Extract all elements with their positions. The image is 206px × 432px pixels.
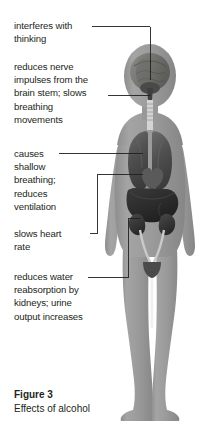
head: [124, 44, 176, 108]
leader-line-reduces-water-reabsorption: [88, 219, 140, 278]
neck: [142, 100, 158, 120]
bladder: [143, 262, 161, 278]
urinary-tract-organ: [140, 230, 164, 328]
callout-causes-shallow-breathing: causes shallow breathing; reduces ventil…: [14, 147, 84, 213]
body-silhouette-group: [105, 44, 195, 421]
callout-reduces-nerve-impulses: reduces nerve impulses from the brain st…: [14, 60, 110, 126]
right-arm: [163, 128, 195, 256]
figure-caption-text: Effects of alcohol: [14, 402, 144, 416]
leader-line-slows-heart-rate: [90, 175, 143, 234]
left-arm: [105, 128, 137, 256]
torso: [115, 120, 186, 226]
brain-organ: [130, 53, 170, 100]
liver-stomach-organ: [127, 188, 179, 222]
lungs-organ: [128, 131, 172, 190]
figure-caption: Figure 3 Effects of alcohol: [14, 388, 144, 416]
trachea-organ: [147, 100, 153, 130]
figure-container: interferes with thinking reduces nerve i…: [0, 0, 206, 432]
heart-organ: [142, 168, 163, 190]
shoulders: [117, 112, 183, 145]
figure-caption-label: Figure 3: [14, 388, 144, 402]
kidneys-organ: [129, 214, 175, 235]
brain-stem: [147, 88, 153, 100]
callout-slows-heart-rate: slows heart rate: [14, 227, 92, 253]
right-leg: [151, 248, 179, 421]
cerebellum: [140, 82, 160, 94]
callout-interferes-with-thinking: interferes with thinking: [14, 19, 98, 45]
pelvis: [115, 196, 185, 257]
callout-reduces-water-reabsorption: reduces water reabsorption by kidneys; u…: [14, 270, 108, 323]
urethra: [151, 278, 154, 328]
